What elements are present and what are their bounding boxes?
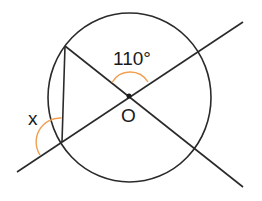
angle-label-110: 110° — [113, 48, 151, 69]
angle-label-x: x — [28, 108, 38, 129]
center-label-o: O — [121, 105, 136, 126]
geometry-diagram: 110° O x — [0, 0, 262, 201]
center-point — [127, 94, 132, 99]
diameter-line-a — [65, 46, 243, 187]
angle-arc-110 — [112, 72, 148, 82]
chord — [62, 46, 65, 142]
